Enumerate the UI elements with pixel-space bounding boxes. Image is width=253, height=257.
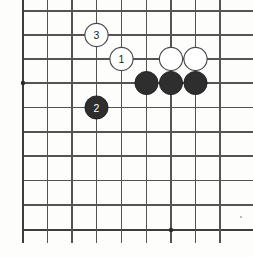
grid-lines <box>22 0 253 243</box>
star-point-icon <box>21 81 25 85</box>
stone-black-disc <box>135 71 158 94</box>
go-board-diagram: 312 <box>0 0 253 257</box>
stone-white-disc <box>159 47 182 70</box>
stone-black-disc <box>184 71 207 94</box>
stone-black-2[interactable]: 2 <box>85 96 108 119</box>
stone-move-number: 3 <box>94 29 100 41</box>
star-point-icon <box>169 228 173 232</box>
stone-white-b[interactable] <box>184 47 207 70</box>
go-board-svg[interactable]: 312 <box>0 0 253 257</box>
stone-move-number: 1 <box>119 53 125 65</box>
scan-speck <box>240 216 242 218</box>
stone-move-number: 2 <box>94 102 100 114</box>
scan-artifacts <box>240 216 242 218</box>
stone-white-a[interactable] <box>159 47 182 70</box>
stone-white-disc <box>184 47 207 70</box>
stone-black-a[interactable] <box>135 71 158 94</box>
stone-black-disc <box>159 71 182 94</box>
stone-white-3[interactable]: 3 <box>85 23 108 46</box>
stone-black-c[interactable] <box>184 71 207 94</box>
stone-white-1[interactable]: 1 <box>110 47 133 70</box>
stone-black-b[interactable] <box>159 71 182 94</box>
